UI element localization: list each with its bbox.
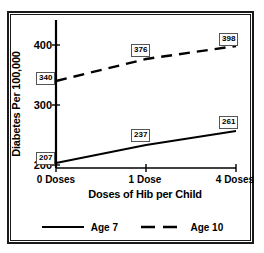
legend-entry-age-7: Age 7 [42,222,118,233]
y-tick-label-300: 300 [22,99,52,111]
legend-label-age-7: Age 7 [91,222,118,233]
data-label-age10-1dose: 376 [131,44,150,57]
y-axis-title: Diabetes Per 100,000 [10,44,22,164]
x-tick-label-0-doses: 0 Doses [25,174,87,185]
legend-label-age-10: Age 10 [190,222,223,233]
data-label-age10-0doses: 340 [36,72,55,85]
chart-legend: Age 7 Age 10 [30,218,235,236]
y-tick-label-400: 400 [22,39,52,51]
legend-swatch-solid [42,222,84,232]
data-label-age7-0doses: 207 [36,152,55,165]
legend-entry-age-10: Age 10 [141,222,223,233]
data-label-age7-4doses: 261 [219,116,238,129]
data-label-age10-4doses: 398 [219,33,238,46]
x-tick-label-1-dose: 1 Dose [114,174,176,185]
x-axis-title: Doses of Hib per Child [40,188,250,200]
x-tick-label-4-doses: 4 Doses [204,174,264,185]
data-label-age7-1dose: 237 [131,129,150,142]
legend-swatch-dashed [141,222,183,232]
